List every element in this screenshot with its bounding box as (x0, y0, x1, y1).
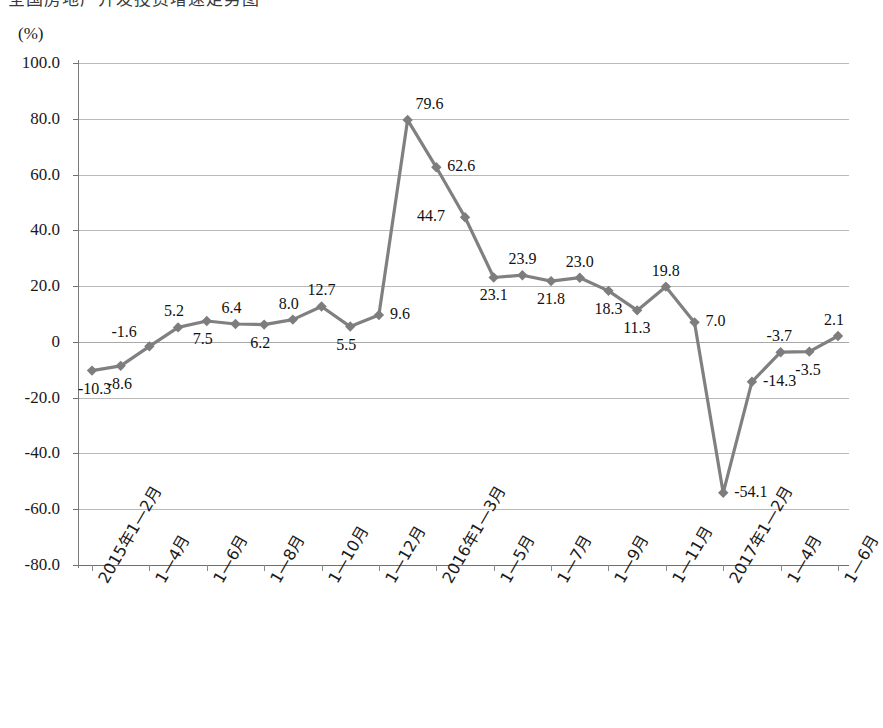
data-point-marker (546, 276, 556, 286)
data-point-label: 12.7 (308, 282, 336, 298)
data-point-label: 23.1 (480, 287, 508, 303)
data-point-label: 2.1 (824, 312, 844, 328)
data-point-label: 7.5 (193, 331, 213, 347)
data-point-label: 19.8 (652, 263, 680, 279)
data-point-label: 23.0 (566, 254, 594, 270)
data-point-marker (288, 314, 298, 324)
data-point-label: 6.4 (221, 300, 241, 316)
data-point-marker (718, 488, 728, 498)
data-point-label: 23.9 (508, 251, 536, 267)
data-point-label: 9.6 (390, 306, 410, 322)
data-point-marker (575, 273, 585, 283)
data-point-label: -1.6 (111, 324, 136, 340)
data-point-label: 7.0 (706, 313, 726, 329)
data-point-marker (517, 270, 527, 280)
data-point-label: -54.1 (734, 484, 767, 500)
data-point-label: 18.3 (594, 301, 622, 317)
data-point-marker (259, 319, 269, 329)
data-point-label: 21.8 (537, 291, 565, 307)
data-point-label: 79.6 (416, 96, 444, 112)
data-point-label: -8.6 (107, 376, 132, 392)
data-point-label: 62.6 (447, 158, 475, 174)
data-point-label: 8.0 (279, 296, 299, 312)
data-point-label: -3.7 (767, 328, 792, 344)
data-point-label: -14.3 (763, 373, 796, 389)
data-point-marker (87, 365, 97, 375)
data-point-marker (488, 272, 498, 282)
data-point-label: 6.2 (250, 335, 270, 351)
data-point-marker (202, 316, 212, 326)
series-polyline (92, 120, 838, 493)
data-point-label: 5.2 (164, 303, 184, 319)
data-point-label: 44.7 (417, 208, 445, 224)
data-point-label: 5.5 (336, 337, 356, 353)
data-point-marker (374, 310, 384, 320)
data-point-marker (230, 319, 240, 329)
data-point-label: 11.3 (623, 320, 650, 336)
data-point-label: -3.5 (795, 362, 820, 378)
